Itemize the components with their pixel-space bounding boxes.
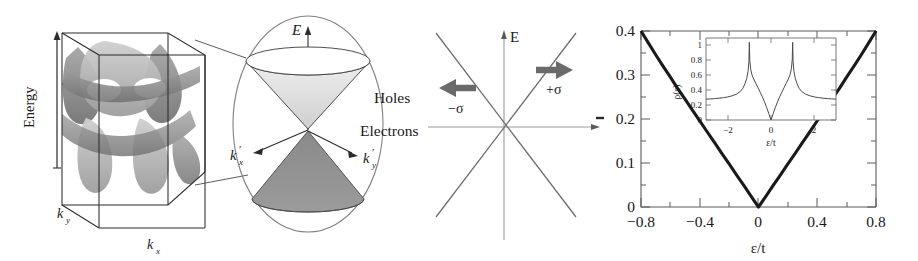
svg-text:0: 0: [698, 115, 703, 125]
dirac-cone-figure: E Holes Electrons k ′ x k: [200, 0, 415, 261]
y-tick-label: 0.1: [616, 154, 635, 171]
kx-axis-label: k x: [147, 237, 160, 256]
svg-text:x: x: [155, 246, 160, 256]
svg-text:y: y: [371, 160, 376, 170]
dirac-E-label: E: [510, 29, 519, 45]
svg-text:′: ′: [372, 146, 374, 158]
svg-text:0: 0: [769, 125, 774, 135]
panel-dirac-cone: E Holes Electrons k ′ x k: [200, 0, 415, 261]
minus-sigma-arrow: [439, 79, 476, 97]
svg-text:0.8: 0.8: [691, 55, 703, 65]
svg-text:0.2: 0.2: [691, 100, 702, 110]
dos-chart: −0.8 −0.4 0 0.4 0.8 0 0.1 0.2 0.3 0.4 ε/…: [596, 0, 918, 261]
x-tick-label: 0.8: [866, 213, 886, 230]
lower-cone-electrons: [252, 131, 364, 212]
dos-inset-x-tick-labels: −2 0 2: [723, 125, 816, 135]
svg-text:k: k: [363, 150, 370, 166]
svg-text:0.4: 0.4: [691, 85, 703, 95]
dos-inset-ylabel: ρ(ε): [672, 84, 683, 99]
brillouin-zone-figure: Energy: [0, 0, 215, 261]
plus-sigma-arrow: [536, 61, 573, 79]
panel-density-of-states: −0.8 −0.4 0 0.4 0.8 0 0.1 0.2 0.3 0.4 ε/…: [596, 0, 918, 261]
energy-axis-label: Energy: [21, 86, 37, 128]
energy-axis: [53, 31, 61, 168]
panel-dirac-dispersion: E +σ −σ: [408, 0, 608, 261]
svg-text:′: ′: [239, 143, 241, 155]
minus-sigma-label: −σ: [448, 101, 464, 116]
holes-label: Holes: [374, 89, 410, 106]
x-tick-label: 0.4: [807, 213, 827, 230]
x-tick-label: −0.8: [627, 213, 655, 230]
svg-text:1: 1: [698, 40, 703, 50]
band-surface: [56, 41, 200, 194]
svg-text:k: k: [147, 237, 154, 252]
svg-text:x: x: [238, 157, 243, 167]
dirac-bands: [436, 33, 576, 217]
panel-brillouin-zone: Energy: [0, 0, 215, 261]
y-tick-label: 0.4: [616, 22, 636, 39]
svg-text:0.6: 0.6: [691, 70, 703, 80]
cone-E-label: E: [291, 22, 301, 38]
y-tick-label: 0.3: [616, 66, 636, 83]
dos-inset-xlabel: ε/t: [766, 138, 776, 148]
kyprime-label: k ′ y: [363, 146, 376, 170]
x-tick-label: 0: [754, 213, 762, 230]
upper-cone-holes: [246, 47, 370, 129]
dos-xlabel: ε/t: [751, 240, 766, 256]
y-tick-label: 0: [627, 198, 635, 215]
dirac-k-axis: [428, 124, 600, 130]
svg-text:k: k: [57, 206, 64, 221]
dos-inset: −2 0 2 0 0.2 0.4 0.6 0.8 1 ε/t ρ(ε): [672, 38, 836, 148]
dos-y-tick-labels: 0 0.1 0.2 0.3 0.4: [616, 22, 636, 215]
y-tick-label: 0.2: [616, 110, 635, 127]
svg-text:y: y: [65, 215, 70, 225]
plus-sigma-label: +σ: [546, 82, 562, 97]
dos-x-tick-labels: −0.8 −0.4 0 0.4 0.8: [627, 213, 886, 230]
svg-text:k: k: [230, 147, 237, 163]
dirac-E-axis: [501, 30, 507, 240]
svg-text:2: 2: [812, 125, 817, 135]
dirac-dispersion-figure: E +σ −σ: [408, 0, 608, 261]
x-tick-label: −0.4: [686, 213, 714, 230]
svg-text:−2: −2: [723, 125, 733, 135]
